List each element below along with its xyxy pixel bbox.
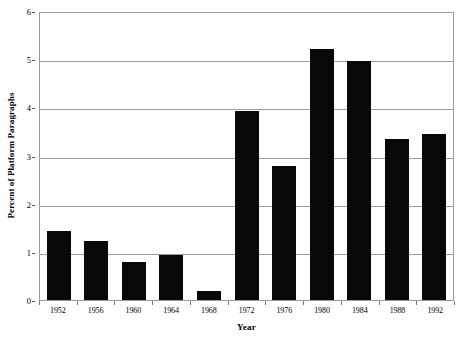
x-axis-tick-mark: [152, 301, 153, 305]
bar-slot: [415, 13, 453, 300]
x-axis-tick-mark: [265, 301, 266, 305]
x-axis-tick-label: 1952: [39, 306, 77, 316]
y-axis-tick-label: 2: [1, 200, 31, 209]
x-axis-tick-mark: [454, 301, 455, 305]
y-axis-tick-mark: [32, 205, 35, 206]
x-axis-tick-label: 1992: [416, 306, 454, 316]
x-axis-tick-mark: [416, 301, 417, 305]
y-axis-tick-label: 5: [1, 56, 31, 65]
y-axis-tick-label: 4: [1, 104, 31, 113]
x-axis-tick-mark: [114, 301, 115, 305]
x-axis-title: Year: [39, 322, 454, 332]
y-axis-tick-mark: [32, 60, 35, 61]
bar-slot: [190, 13, 228, 300]
bar: [235, 111, 259, 300]
x-axis-tick-label: 1964: [152, 306, 190, 316]
bar-slot: [378, 13, 416, 300]
y-axis-tick-mark: [32, 12, 35, 13]
x-axis-tick-mark: [379, 301, 380, 305]
bar-slot: [265, 13, 303, 300]
x-axis-tick-mark: [77, 301, 78, 305]
x-axis-tick-label: 1968: [190, 306, 228, 316]
x-axis-tick-mark: [39, 301, 40, 305]
y-axis-tick-mark: [32, 157, 35, 158]
bar: [310, 49, 334, 300]
bar: [159, 255, 183, 300]
bar-chart: Percent of Platform Paragraphs 0123456 1…: [0, 0, 472, 349]
bar-slot: [78, 13, 116, 300]
bar: [347, 61, 371, 300]
y-axis-tick-mark: [32, 253, 35, 254]
bar: [422, 134, 446, 300]
bar-slot: [228, 13, 266, 300]
bar: [47, 231, 71, 300]
y-axis-tick-mark: [32, 108, 35, 109]
bar: [385, 139, 409, 300]
y-axis-tick-label: 6: [1, 8, 31, 17]
x-axis-tick-label: 1960: [114, 306, 152, 316]
plot-area: [39, 12, 454, 301]
bar-slot: [40, 13, 78, 300]
bar-slot: [115, 13, 153, 300]
y-axis-tick-mark: [32, 301, 35, 302]
bar-slot: [340, 13, 378, 300]
y-axis-tick-label: 0: [1, 297, 31, 306]
y-axis-tick-label: 1: [1, 249, 31, 258]
bar: [197, 291, 221, 300]
bar-slot: [153, 13, 191, 300]
x-axis-tick-label: 1976: [265, 306, 303, 316]
bar-slot: [303, 13, 341, 300]
x-axis-tick-labels: 1952195619601964196819721976198019841988…: [39, 306, 454, 316]
x-axis-tick-label: 1984: [341, 306, 379, 316]
bar: [84, 241, 108, 300]
x-axis-tick-mark: [190, 301, 191, 305]
x-axis-tick-label: 1956: [77, 306, 115, 316]
bar-series: [40, 13, 453, 300]
x-axis-tick-mark: [341, 301, 342, 305]
bar: [122, 262, 146, 300]
x-axis-ticks: [39, 301, 454, 305]
x-axis-tick-label: 1988: [379, 306, 417, 316]
x-axis-tick-mark: [303, 301, 304, 305]
y-axis-tick-label: 3: [1, 152, 31, 161]
x-axis-tick-label: 1972: [228, 306, 266, 316]
x-axis-tick-mark: [228, 301, 229, 305]
bar: [272, 166, 296, 300]
y-axis-tick-labels: 0123456: [0, 0, 36, 349]
x-axis-tick-label: 1980: [303, 306, 341, 316]
